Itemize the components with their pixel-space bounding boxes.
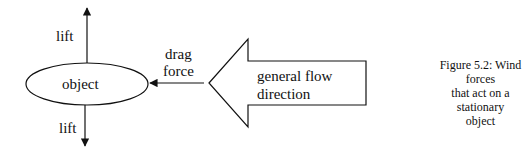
drag-label-line2: force: [163, 63, 194, 79]
lift-bottom-label: lift: [59, 120, 77, 136]
flow-label-line1: general flow: [257, 68, 332, 84]
flow-label-line2: direction: [257, 86, 310, 102]
object-label: object: [62, 76, 99, 92]
lift-top-label: lift: [56, 28, 74, 44]
caption-line2: that act on a stationary: [428, 86, 530, 114]
figure-caption: Figure 5.2: Wind forces that act on a st…: [428, 58, 530, 128]
caption-line3: object: [428, 114, 530, 128]
drag-label-line1: drag: [165, 46, 192, 62]
caption-line1: Figure 5.2: Wind forces: [428, 58, 530, 86]
